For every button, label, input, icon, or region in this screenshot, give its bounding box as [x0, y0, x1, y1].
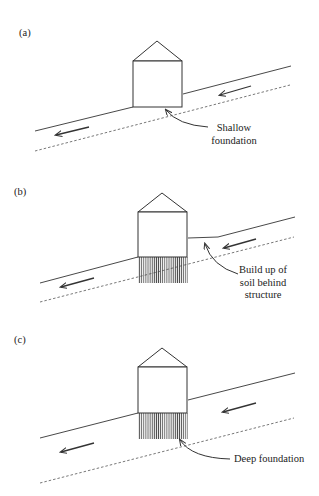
house-roof: [133, 41, 182, 61]
callout-line: soil behind: [236, 277, 290, 290]
left-down-arrow-icon: [223, 403, 256, 412]
callout-line: structure: [236, 289, 290, 302]
ground-surface-left: [35, 107, 133, 131]
house-roof: [138, 348, 187, 367]
house-structure: [133, 41, 182, 107]
house-body: [133, 61, 182, 107]
panel-label-a: (a): [19, 27, 31, 39]
callout-deep-foundation: Deep foundation: [234, 453, 312, 466]
left-down-arrow-icon: [56, 127, 89, 135]
deep-pile-foundation: [138, 413, 188, 439]
curved-pointer-arrow-icon: [180, 440, 230, 459]
house-body: [138, 212, 187, 257]
callout-line: Deep foundation: [234, 453, 312, 466]
house-body: [138, 367, 187, 413]
ground-surface-left: [40, 413, 138, 438]
left-down-arrow-icon: [224, 239, 256, 248]
house-structure: [138, 193, 187, 257]
left-down-arrow-icon: [61, 278, 94, 287]
soil-buildup-surface: [188, 217, 295, 238]
callout-line: Build up of: [236, 264, 290, 277]
callout-soil-buildup: Build up of soil behind structure: [236, 264, 290, 302]
callout-line: foundation: [208, 135, 260, 148]
pile-foundation: [138, 257, 188, 283]
left-down-arrow-icon: [220, 86, 251, 95]
foundation-slope-diagram: (a) (b) (c) Shallow foundation Build up …: [0, 0, 319, 496]
curved-pointer-arrow-icon: [166, 110, 208, 127]
ground-surface-right: [188, 373, 295, 400]
house-roof: [138, 193, 187, 212]
callout-line: Shallow: [208, 122, 260, 135]
curved-pointer-arrow-icon: [205, 244, 238, 274]
panel-label-c: (c): [14, 334, 26, 346]
left-down-arrow-icon: [61, 443, 94, 452]
diagram-canvas: [0, 0, 319, 496]
house-structure: [138, 348, 187, 413]
panel-label-b: (b): [14, 186, 26, 198]
callout-shallow-foundation: Shallow foundation: [208, 122, 260, 147]
